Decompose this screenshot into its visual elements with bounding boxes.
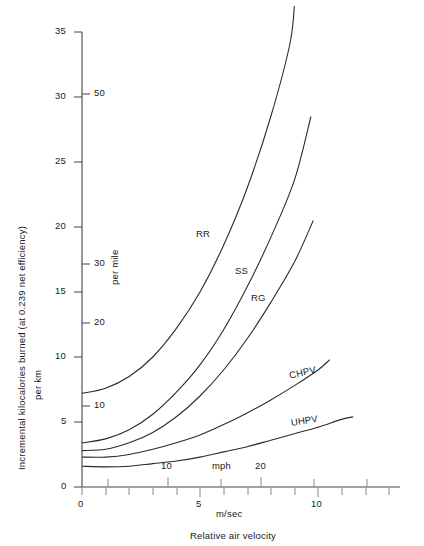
y2-tick-label-50: 50: [94, 87, 105, 98]
x2-tick-label-10: 10: [161, 460, 172, 471]
y-axis-units-per-km: per km: [32, 370, 43, 400]
chart-figure: 35 30 25 20 15 10 5 0 50 30 20 10 0 5 10…: [0, 0, 424, 546]
y-tick-label-20: 20: [55, 220, 66, 231]
y-tick-label-10: 10: [55, 350, 66, 361]
curve-label-rr: RR: [196, 228, 210, 239]
y-axis-units-per-mile: per mile: [109, 250, 120, 285]
x-tick-label-5: 5: [196, 498, 201, 509]
y2-tick-label-30: 30: [94, 257, 105, 268]
x-axis-units-mps: m/sec: [216, 508, 242, 519]
x-tick-label-0: 0: [78, 498, 83, 509]
y-tick-label-25: 25: [55, 155, 66, 166]
x-axis-title: Relative air velocity: [190, 530, 276, 541]
curve-label-rg: RG: [251, 292, 266, 303]
y-tick-label-30: 30: [55, 90, 66, 101]
x2-tick-label-20: 20: [255, 460, 266, 471]
y-tick-label-15: 15: [55, 285, 66, 296]
y-tick-label-0: 0: [61, 480, 66, 491]
y-tick-label-5: 5: [61, 415, 66, 426]
y-axis-title-main: Incremental kilocalories burned (at 0.23…: [16, 226, 27, 470]
y2-tick-label-10: 10: [94, 399, 105, 410]
y2-tick-label-20: 20: [94, 316, 105, 327]
y-tick-label-35: 35: [55, 25, 66, 36]
x-tick-label-10: 10: [311, 498, 322, 509]
curve-label-ss: SS: [235, 265, 248, 276]
x-axis-units-mph: mph: [212, 460, 231, 471]
